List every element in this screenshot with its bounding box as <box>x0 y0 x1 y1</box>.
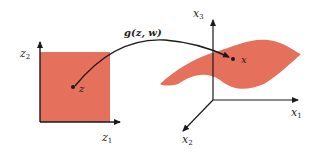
data-manifold <box>160 40 301 89</box>
data-point <box>231 57 235 61</box>
mapping-label: g(z, w) <box>124 27 162 39</box>
generative-mapping-diagram: z1 z2 z x1 x3 x2 x g(z, w) <box>0 0 317 156</box>
latent-point <box>71 85 75 89</box>
data-point-label: x <box>241 54 247 65</box>
x2-axis <box>183 100 213 131</box>
data-space-panel: x1 x3 x2 x <box>160 7 302 147</box>
z2-axis-label: z2 <box>19 47 30 61</box>
x3-axis-label: x3 <box>193 7 204 21</box>
latent-point-label: z <box>78 83 85 94</box>
x1-axis-label: x1 <box>291 106 302 120</box>
x2-axis-label: x2 <box>182 133 193 147</box>
z1-axis-label: z1 <box>101 131 112 145</box>
